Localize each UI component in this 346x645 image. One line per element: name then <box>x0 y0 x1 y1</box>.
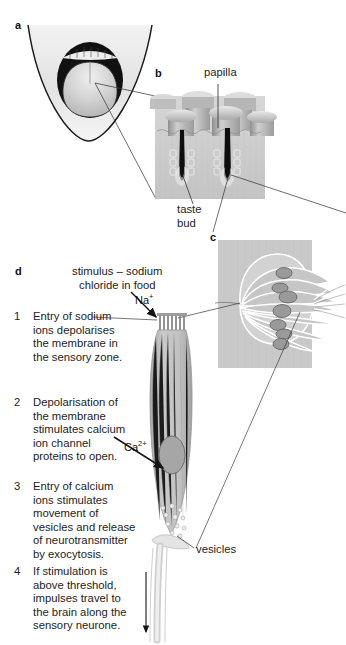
taste-diagram-figure: a b c d papilla taste bud vesicles stimu… <box>0 0 346 645</box>
step-3-number: 3 <box>14 480 26 494</box>
stimulus-label-line2: chloride in food <box>79 279 156 293</box>
step-4: 4 If stimulation is above threshold, imp… <box>14 565 136 633</box>
step-3: 3 Entry of calcium ions stimulates movem… <box>14 480 136 562</box>
panel-a-artwork <box>28 25 152 141</box>
step-1-text: Entry of sodium ions depolarises the mem… <box>33 310 132 364</box>
vesicles-label: vesicles <box>196 543 236 557</box>
sodium-ion-symbol: Na <box>135 294 149 306</box>
step-2-number: 2 <box>14 396 26 410</box>
step-4-text: If stimulation is above threshold, impul… <box>33 565 136 633</box>
step-2-text: Depolarisation of the membrane stimulate… <box>33 396 132 464</box>
panel-letter-a: a <box>15 20 21 31</box>
panel-b-artwork <box>150 91 277 199</box>
sodium-ion-charge: + <box>149 292 153 301</box>
sodium-ion-label: Na+ <box>135 294 153 306</box>
taste-bud-label-line1: taste <box>177 203 202 217</box>
panel-letter-b: b <box>155 68 162 79</box>
step-1-number: 1 <box>14 310 26 324</box>
stimulus-label-line1: stimulus – sodium <box>72 265 162 279</box>
papilla-label: papilla <box>204 66 237 80</box>
step-1: 1 Entry of sodium ions depolarises the m… <box>14 310 132 364</box>
step-3-text: Entry of calcium ions stimulates movemen… <box>33 480 136 562</box>
panel-letter-c: c <box>210 232 216 243</box>
panel-letter-d: d <box>15 266 22 277</box>
calcium-ion-charge: 2+ <box>138 439 147 448</box>
step-4-number: 4 <box>14 565 26 579</box>
step-2: 2 Depolarisation of the membrane stimula… <box>14 396 132 464</box>
taste-bud-label-line2: bud <box>177 217 196 231</box>
